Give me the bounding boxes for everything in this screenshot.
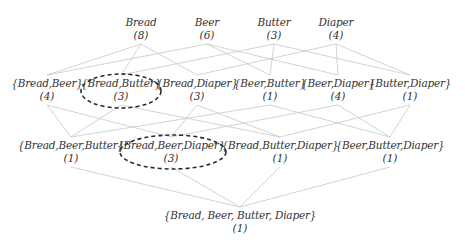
lattice-edge [141, 44, 197, 75]
itemset-label: {Beer,Diaper} [301, 77, 375, 90]
itemset-node: {Bread, Beer, Butter, Diaper}(1) [164, 209, 317, 235]
lattice-edges [0, 0, 465, 244]
itemset-label: Beer [195, 16, 219, 29]
support-count: (3) [117, 152, 225, 165]
lattice-edge [390, 105, 410, 137]
itemset-label: Diaper [319, 16, 354, 29]
itemset-node: {Beer,Butter,Diaper}(1) [335, 139, 444, 165]
itemset-node: Diaper(4) [319, 16, 354, 42]
itemset-label: {Bread,Beer,Diaper} [117, 139, 225, 152]
itemset-label: {Bread,Butter} [81, 77, 161, 90]
itemset-label: {Bread, Beer, Butter, Diaper} [164, 209, 317, 222]
lattice-edge [47, 105, 71, 137]
itemset-label: {Bread,Butter,Diaper} [222, 139, 339, 152]
itemset-node: {Bread,Butter}(3) [81, 77, 161, 103]
itemset-label: Bread [126, 16, 157, 29]
support-count: (4) [301, 90, 375, 103]
support-count: (1) [164, 222, 317, 235]
itemset-node: {Beer,Butter}(1) [234, 77, 306, 103]
support-count: (4) [11, 90, 82, 103]
support-count: (1) [335, 152, 444, 165]
lattice-edge [47, 105, 171, 137]
support-count: (3) [81, 90, 161, 103]
lattice-edge [171, 167, 240, 207]
lattice-edge [240, 167, 280, 207]
itemset-label: {Bread,Beer,Butter} [18, 139, 124, 152]
lattice-edge [274, 44, 410, 75]
support-count: (3) [258, 29, 291, 42]
support-count: (3) [156, 90, 238, 103]
itemset-label: {Butter,Diaper} [369, 77, 452, 90]
itemset-node: {Bread,Beer,Diaper}(3) [117, 139, 225, 165]
support-count: (1) [369, 90, 452, 103]
support-count: (6) [195, 29, 219, 42]
lattice-edge [207, 44, 338, 75]
lattice-edge [71, 105, 270, 137]
lattice-edge [171, 105, 197, 137]
itemset-label: {Bread,Diaper} [156, 77, 238, 90]
lattice-edge [71, 167, 240, 207]
itemset-node: {Butter,Diaper}(1) [369, 77, 452, 103]
lattice-edge [240, 167, 390, 207]
lattice-edge [270, 105, 390, 137]
itemset-node: {Bread,Beer}(4) [11, 77, 82, 103]
lattice-edge [336, 44, 410, 75]
itemset-node: Bread(8) [126, 16, 157, 42]
lattice-edge [197, 44, 336, 75]
itemset-label: Butter [258, 16, 291, 29]
itemset-node: {Bread,Diaper}(3) [156, 77, 238, 103]
itemset-label: {Beer,Butter,Diaper} [335, 139, 444, 152]
lattice-edge [121, 44, 141, 75]
support-count: (8) [126, 29, 157, 42]
lattice-edge [121, 44, 274, 75]
itemset-lattice-diagram: Bread(8)Beer(6)Butter(3)Diaper(4){Bread,… [0, 0, 465, 244]
lattice-edge [336, 44, 338, 75]
support-count: (1) [234, 90, 306, 103]
support-count: (1) [222, 152, 339, 165]
itemset-label: {Beer,Butter} [234, 77, 306, 90]
lattice-edge [280, 105, 410, 137]
itemset-node: Beer(6) [195, 16, 219, 42]
itemset-node: Butter(3) [258, 16, 291, 42]
itemset-label: {Bread,Beer} [11, 77, 82, 90]
itemset-node: {Bread,Beer,Butter}(1) [18, 139, 124, 165]
support-count: (4) [319, 29, 354, 42]
support-count: (1) [18, 152, 124, 165]
itemset-node: {Beer,Diaper}(4) [301, 77, 375, 103]
itemset-node: {Bread,Butter,Diaper}(1) [222, 139, 339, 165]
lattice-edge [71, 105, 121, 137]
